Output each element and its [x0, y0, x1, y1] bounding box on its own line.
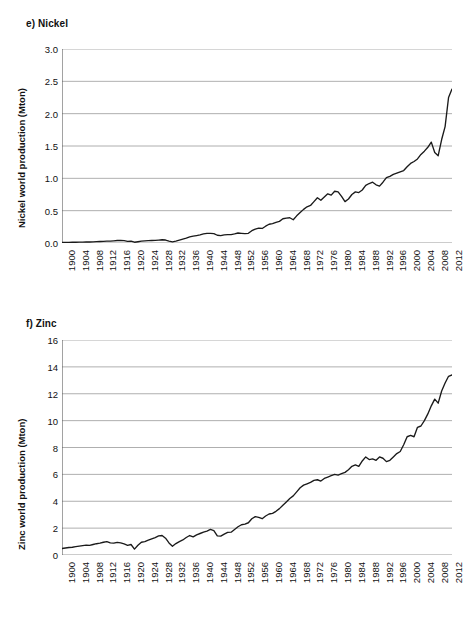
y-tick-label: 2 [53, 523, 58, 534]
x-tick-label: 1900 [66, 562, 77, 583]
x-tick-label: 1928 [163, 562, 174, 583]
y-tick-label: 1.5 [45, 141, 58, 152]
x-tick-label: 1992 [384, 562, 395, 583]
x-tick-label: 2008 [439, 562, 450, 583]
y-tick-label: 2.5 [45, 76, 58, 87]
x-tick-label: 1968 [301, 562, 312, 583]
y-tick-label: 16 [47, 335, 58, 346]
y-tick-label: 8 [53, 442, 58, 453]
x-tick-label: 1948 [232, 250, 243, 271]
x-tick-label: 1988 [370, 562, 381, 583]
nickel-panel-title: e) Nickel [26, 18, 68, 29]
y-tick-label: 4 [53, 496, 58, 507]
zinc-line-chart [62, 340, 452, 555]
nickel-plot-area: 0.00.51.01.52.02.53.01900190419081912191… [62, 49, 452, 243]
x-tick-label: 1968 [301, 250, 312, 271]
x-tick-label: 1972 [314, 250, 325, 271]
x-tick-label: 2000 [411, 562, 422, 583]
x-tick-label: 1960 [273, 250, 284, 271]
x-tick-label: 1912 [107, 250, 118, 271]
x-tick-label: 1916 [121, 250, 132, 271]
x-tick-label: 1920 [135, 562, 146, 583]
y-tick-label: 2.0 [45, 108, 58, 119]
y-tick-label: 0.5 [45, 205, 58, 216]
x-tick-label: 1984 [356, 250, 367, 271]
x-tick-label: 1948 [232, 562, 243, 583]
zinc-y-axis-label: Zinc world production (Mton) [16, 419, 27, 550]
data-series-line [62, 89, 452, 242]
x-tick-label: 1944 [218, 562, 229, 583]
x-tick-label: 1952 [245, 250, 256, 271]
x-tick-label: 1940 [204, 562, 215, 583]
x-tick-label: 1904 [80, 562, 91, 583]
x-tick-label: 2012 [453, 562, 464, 583]
x-tick-label: 2004 [425, 250, 436, 271]
x-tick-label: 1936 [190, 250, 201, 271]
x-tick-label: 1932 [176, 562, 187, 583]
zinc-plot-area: 0246810121416190019041908191219161920192… [62, 340, 452, 555]
x-tick-label: 1932 [176, 250, 187, 271]
x-tick-label: 1976 [328, 250, 339, 271]
x-tick-label: 1984 [356, 562, 367, 583]
x-tick-label: 1924 [149, 562, 160, 583]
x-tick-label: 1996 [397, 250, 408, 271]
y-tick-label: 14 [47, 361, 58, 372]
x-tick-label: 2012 [453, 250, 464, 271]
x-tick-label: 1956 [259, 562, 270, 583]
x-tick-label: 1908 [94, 250, 105, 271]
x-tick-label: 1960 [273, 562, 284, 583]
x-tick-label: 1972 [314, 562, 325, 583]
x-tick-label: 1928 [163, 250, 174, 271]
y-tick-label: 1.0 [45, 173, 58, 184]
zinc-panel-title: f) Zinc [26, 318, 57, 329]
x-tick-label: 2000 [411, 250, 422, 271]
x-tick-label: 2008 [439, 250, 450, 271]
x-tick-label: 1956 [259, 250, 270, 271]
x-tick-label: 1992 [384, 250, 395, 271]
x-tick-label: 1996 [397, 562, 408, 583]
y-tick-label: 10 [47, 415, 58, 426]
x-tick-label: 1936 [190, 562, 201, 583]
x-tick-label: 1924 [149, 250, 160, 271]
x-tick-label: 2004 [425, 562, 436, 583]
y-tick-label: 12 [47, 388, 58, 399]
y-tick-label: 6 [53, 469, 58, 480]
x-tick-label: 1904 [80, 250, 91, 271]
x-tick-label: 1976 [328, 562, 339, 583]
x-tick-label: 1912 [107, 562, 118, 583]
x-tick-label: 1980 [342, 562, 353, 583]
x-tick-label: 1944 [218, 250, 229, 271]
x-tick-label: 1964 [287, 562, 298, 583]
x-tick-label: 1920 [135, 250, 146, 271]
y-tick-label: 3.0 [45, 44, 58, 55]
y-tick-label: 0.0 [45, 238, 58, 249]
x-tick-label: 1964 [287, 250, 298, 271]
x-tick-label: 1980 [342, 250, 353, 271]
nickel-line-chart [62, 49, 452, 243]
nickel-y-axis-label: Nickel world production (Mton) [16, 88, 27, 228]
data-series-line [62, 375, 452, 549]
x-tick-label: 1900 [66, 250, 77, 271]
x-tick-label: 1908 [94, 562, 105, 583]
x-tick-label: 1952 [245, 562, 256, 583]
y-tick-label: 0 [53, 550, 58, 561]
x-tick-label: 1916 [121, 562, 132, 583]
x-tick-label: 1988 [370, 250, 381, 271]
zinc-figure: f) Zinc Zinc world production (Mton) 024… [0, 300, 470, 617]
nickel-figure: e) Nickel Nickel world production (Mton)… [0, 0, 470, 300]
x-tick-label: 1940 [204, 250, 215, 271]
